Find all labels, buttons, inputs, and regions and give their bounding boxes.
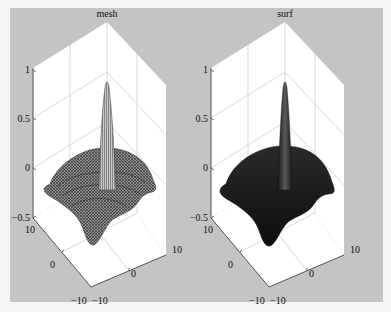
z-tick-label: 0 xyxy=(203,162,208,173)
surf-plot: surf 1 0.5 0 −0.5 10 0 −10 −10 0 10 xyxy=(190,8,360,306)
z-tick-label: 1 xyxy=(203,64,208,75)
mesh-plot: mesh 1 0.5 0 −0.5 10 0 −10 −10 0 10 xyxy=(12,8,182,306)
y-tick-label: 10 xyxy=(25,224,35,235)
x-tick-label: 10 xyxy=(350,244,360,255)
mesh-title: mesh xyxy=(96,8,117,19)
x-tick-label: −10 xyxy=(92,295,108,306)
x-tick-label: 0 xyxy=(309,268,314,279)
y-tick-label: 0 xyxy=(50,259,55,270)
z-tick-label: 0.5 xyxy=(18,113,31,124)
z-tick-label: 0.5 xyxy=(196,113,209,124)
y-tick-label: −10 xyxy=(71,295,87,306)
figure-canvas: mesh 1 0.5 0 −0.5 10 0 −10 −10 0 10 surf… xyxy=(0,0,391,312)
y-tick-label: −10 xyxy=(249,295,265,306)
x-tick-label: 10 xyxy=(172,244,182,255)
x-tick-label: −10 xyxy=(270,295,286,306)
z-tick-label: 1 xyxy=(25,64,30,75)
z-tick-label: −0.5 xyxy=(190,212,208,223)
y-tick-label: 10 xyxy=(203,224,213,235)
y-tick-label: 0 xyxy=(228,259,233,270)
surf-title: surf xyxy=(277,8,293,19)
z-tick-label: −0.5 xyxy=(12,212,30,223)
x-tick-label: 0 xyxy=(131,268,136,279)
z-tick-label: 0 xyxy=(25,162,30,173)
